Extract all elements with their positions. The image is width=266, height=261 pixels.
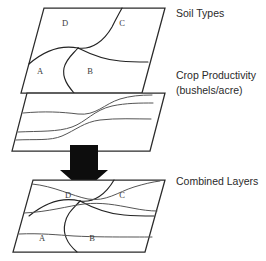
- combined-layers-caption: Combined Layers: [176, 175, 258, 187]
- soil-region-label-c: C: [119, 18, 125, 28]
- soil-region-label-d: D: [62, 18, 68, 28]
- diagram-canvas: D C A B Soil Types Crop Productivity (bu…: [0, 0, 266, 261]
- crop-productivity-caption-line2: (bushels/acre): [176, 84, 243, 96]
- soil-region-label-a: A: [37, 66, 44, 76]
- crop-productivity-plane: [12, 93, 165, 151]
- soil-region-label-b: B: [87, 66, 93, 76]
- crop-productivity-caption-line1: Crop Productivity: [176, 69, 257, 81]
- combined-region-label-a: A: [39, 233, 46, 243]
- combined-region-label-c: C: [119, 190, 125, 200]
- crop-productivity-caption: Crop Productivity (bushels/acre): [176, 69, 257, 96]
- soil-types-caption: Soil Types: [176, 7, 224, 19]
- layer-combined: D C A B Combined Layers: [13, 175, 258, 252]
- combined-region-label-d: D: [65, 190, 71, 200]
- combined-region-label-b: B: [89, 233, 95, 243]
- gis-layer-diagram: D C A B Soil Types Crop Productivity (bu…: [0, 0, 266, 261]
- soil-types-plane: [21, 8, 165, 93]
